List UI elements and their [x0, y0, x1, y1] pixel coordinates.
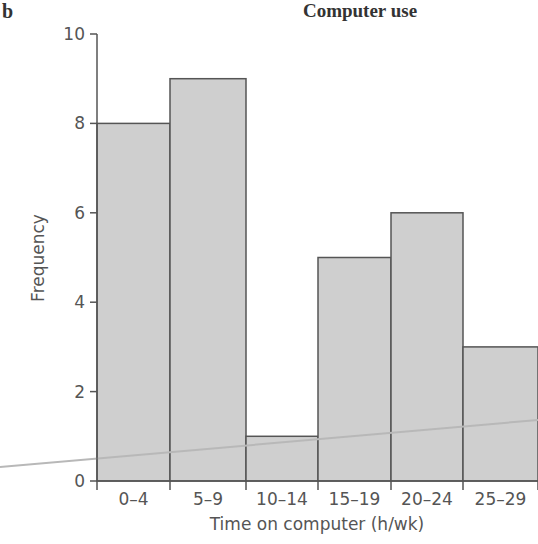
- y-tick-label: 10: [63, 24, 85, 44]
- histogram-chart: 0246810 0–45–910–1415–1920–2425–29 Frequ…: [0, 0, 538, 544]
- x-tick-label: 25–29: [475, 489, 527, 509]
- y-ticks: 0246810: [63, 24, 97, 491]
- bar-25–29: [463, 347, 538, 481]
- x-ticks: 0–45–910–1415–1920–2425–29: [97, 481, 538, 509]
- bars: [97, 79, 538, 481]
- x-tick-label: 10–14: [256, 489, 308, 509]
- y-tick-label: 8: [74, 113, 85, 133]
- x-tick-label: 20–24: [401, 489, 453, 509]
- y-tick-label: 0: [74, 471, 85, 491]
- y-tick-label: 2: [74, 382, 85, 402]
- x-tick-label: 15–19: [329, 489, 381, 509]
- x-tick-label: 0–4: [118, 489, 148, 509]
- bar-15–19: [318, 258, 391, 482]
- y-axis-label: Frequency: [28, 214, 48, 302]
- y-tick-label: 4: [74, 292, 85, 312]
- bar-0–4: [97, 123, 170, 481]
- x-tick-label: 5–9: [193, 489, 223, 509]
- bar-5–9: [170, 79, 246, 481]
- x-axis-label: Time on computer (h/wk): [209, 514, 425, 534]
- bar-20–24: [391, 213, 463, 481]
- y-tick-label: 6: [74, 203, 85, 223]
